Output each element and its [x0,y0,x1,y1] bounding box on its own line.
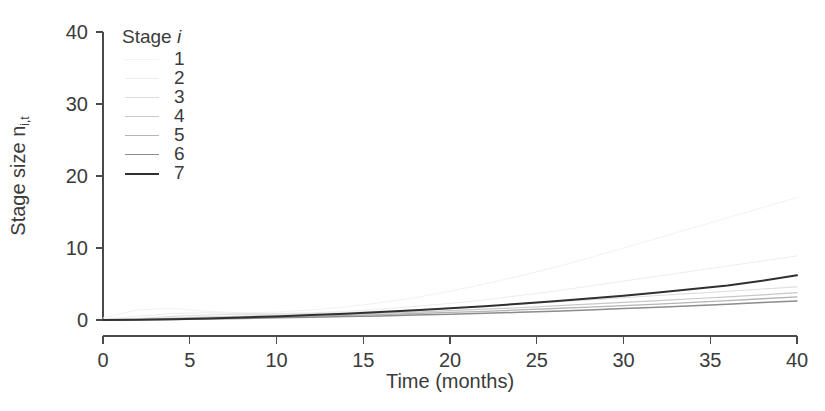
legend-label-4: 4 [174,106,185,125]
y-axis-title: Stage size ni,t [7,116,30,235]
y-axis-title-subscript: i,t [18,116,32,125]
x-tick-label: 0 [97,350,108,370]
chart-figure: 010203040 0510152025303540 Time (months)… [0,0,825,411]
y-tick-label: 20 [40,166,88,186]
legend-swatch-line-3 [125,97,159,98]
legend-swatch-line-5 [125,135,159,136]
legend-swatch-line-7 [125,173,159,175]
legend: Stage i 1234567 [122,26,227,183]
legend-label-5: 5 [174,125,185,144]
x-tick-label: 15 [352,350,374,370]
legend-swatch-line-2 [125,78,159,79]
legend-label-7: 7 [174,163,185,182]
x-tick-label: 10 [265,350,287,370]
y-tick-label: 30 [40,94,88,114]
series-lines [103,198,797,320]
x-tick-label: 25 [526,350,548,370]
legend-label-1: 1 [174,49,185,68]
legend-title: Stage i [122,26,227,48]
x-tick-label: 40 [786,350,808,370]
legend-swatch-line-4 [125,116,159,117]
series-line-1 [103,198,797,318]
x-tick-label: 5 [184,350,195,370]
series-line-2 [103,256,797,319]
series-line-7 [103,275,797,320]
legend-title-text: Stage [122,26,177,47]
legend-swatch-line-6 [125,154,159,155]
x-tick-label: 20 [439,350,461,370]
legend-label-2: 2 [174,68,185,87]
legend-title-symbol: i [177,26,181,47]
legend-label-6: 6 [174,144,185,163]
legend-entries: 1234567 [122,50,227,183]
legend-swatch-line-1 [125,59,159,60]
x-axis-title: Time (months) [386,370,514,393]
legend-label-3: 3 [174,87,185,106]
y-tick-label: 10 [40,238,88,258]
y-axis-title-text: Stage size n [7,126,29,236]
legend-entry-7: 7 [122,164,227,183]
x-tick-label: 30 [612,350,634,370]
y-tick-label: 40 [40,22,88,42]
x-tick-label: 35 [699,350,721,370]
y-tick-label: 0 [40,310,88,330]
